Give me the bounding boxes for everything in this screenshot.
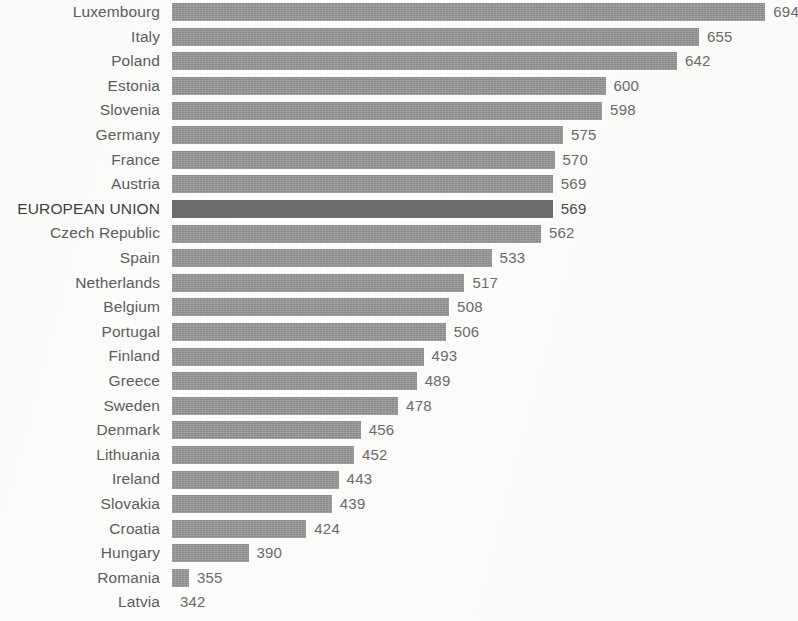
- bar-row: Romania355: [0, 566, 798, 591]
- bar: [172, 471, 339, 489]
- bar-value-label: 575: [571, 123, 597, 148]
- chart-plot-area: Luxembourg694Italy655Poland642Estonia600…: [0, 0, 798, 621]
- bar: [172, 421, 361, 439]
- bar: [172, 446, 354, 464]
- bar-value-label: 478: [406, 394, 432, 419]
- category-label: Spain: [0, 246, 160, 271]
- bar-row: Ireland443: [0, 467, 798, 492]
- bar-row: EUROPEAN UNION569: [0, 197, 798, 222]
- category-label: Italy: [0, 25, 160, 50]
- category-label: EUROPEAN UNION: [0, 197, 160, 222]
- bar-row: Greece489: [0, 369, 798, 394]
- bar-value-label: 342: [180, 590, 206, 615]
- bar: [172, 495, 332, 513]
- category-label: Greece: [0, 369, 160, 394]
- bar-value-label: 562: [549, 221, 575, 246]
- category-label: Czech Republic: [0, 221, 160, 246]
- category-label: Sweden: [0, 394, 160, 419]
- bar-value-label: 694: [773, 0, 798, 25]
- bar-row: Austria569: [0, 172, 798, 197]
- bar: [172, 520, 306, 538]
- bar-row: Slovenia598: [0, 98, 798, 123]
- bar-value-label: 452: [362, 443, 388, 468]
- category-label: Luxembourg: [0, 0, 160, 25]
- bar-row: Sweden478: [0, 394, 798, 419]
- bar-row: Slovakia439: [0, 492, 798, 517]
- category-label: Finland: [0, 344, 160, 369]
- bar: [172, 225, 541, 243]
- bar: [172, 175, 553, 193]
- category-label: Estonia: [0, 74, 160, 99]
- bar-value-label: 642: [685, 49, 711, 74]
- category-label: Austria: [0, 172, 160, 197]
- category-label: Denmark: [0, 418, 160, 443]
- bar-row: France570: [0, 148, 798, 173]
- bar-value-label: 424: [314, 517, 340, 542]
- bar: [172, 372, 417, 390]
- bar-row: Estonia600: [0, 74, 798, 99]
- bar-value-label: 569: [561, 197, 587, 222]
- category-label: Germany: [0, 123, 160, 148]
- bar: [172, 151, 555, 169]
- bar: [172, 274, 464, 292]
- bar-row: Finland493: [0, 344, 798, 369]
- bar-value-label: 598: [610, 98, 636, 123]
- category-label: Latvia: [0, 590, 160, 615]
- category-label: Poland: [0, 49, 160, 74]
- category-label: Portugal: [0, 320, 160, 345]
- category-label: Croatia: [0, 517, 160, 542]
- bar: [172, 569, 189, 587]
- bar-value-label: 517: [472, 271, 498, 296]
- category-label: Slovakia: [0, 492, 160, 517]
- bar-value-label: 655: [707, 25, 733, 50]
- bar-row: Spain533: [0, 246, 798, 271]
- bar-row: Czech Republic562: [0, 221, 798, 246]
- bar: [172, 298, 449, 316]
- bar-value-label: 493: [432, 344, 458, 369]
- bar: [172, 3, 765, 21]
- bar-value-label: 443: [347, 467, 373, 492]
- bar-row: Netherlands517: [0, 271, 798, 296]
- category-label: Netherlands: [0, 271, 160, 296]
- bar-value-label: 489: [425, 369, 451, 394]
- bar-highlighted: [172, 200, 553, 218]
- bar-row: Portugal506: [0, 320, 798, 345]
- bar-row: Germany575: [0, 123, 798, 148]
- bar-row: Poland642: [0, 49, 798, 74]
- bar-value-label: 533: [500, 246, 526, 271]
- category-label: Belgium: [0, 295, 160, 320]
- bar-value-label: 456: [369, 418, 395, 443]
- bar: [172, 102, 602, 120]
- category-label: Ireland: [0, 467, 160, 492]
- bar-value-label: 569: [561, 172, 587, 197]
- bar-value-label: 390: [257, 541, 283, 566]
- bar-row: Lithuania452: [0, 443, 798, 468]
- bar-row: Latvia342: [0, 590, 798, 615]
- bar-value-label: 439: [340, 492, 366, 517]
- category-label: France: [0, 148, 160, 173]
- bar: [172, 77, 606, 95]
- bar: [172, 126, 563, 144]
- bar: [172, 397, 398, 415]
- bar: [172, 348, 424, 366]
- bar-value-label: 355: [197, 566, 223, 591]
- bar-value-label: 600: [614, 74, 640, 99]
- category-label: Hungary: [0, 541, 160, 566]
- bar: [172, 28, 699, 46]
- bar-row: Belgium508: [0, 295, 798, 320]
- bar: [172, 544, 249, 562]
- bar-value-label: 508: [457, 295, 483, 320]
- bar-value-label: 570: [563, 148, 589, 173]
- bar-chart-figure: Luxembourg694Italy655Poland642Estonia600…: [0, 0, 798, 621]
- bar-row: Italy655: [0, 25, 798, 50]
- bar: [172, 249, 492, 267]
- bar: [172, 323, 446, 341]
- bar-row: Denmark456: [0, 418, 798, 443]
- bar: [172, 52, 677, 70]
- bar-row: Luxembourg694: [0, 0, 798, 25]
- category-label: Slovenia: [0, 98, 160, 123]
- bar-row: Croatia424: [0, 517, 798, 542]
- category-label: Romania: [0, 566, 160, 591]
- category-label: Lithuania: [0, 443, 160, 468]
- bar-value-label: 506: [454, 320, 480, 345]
